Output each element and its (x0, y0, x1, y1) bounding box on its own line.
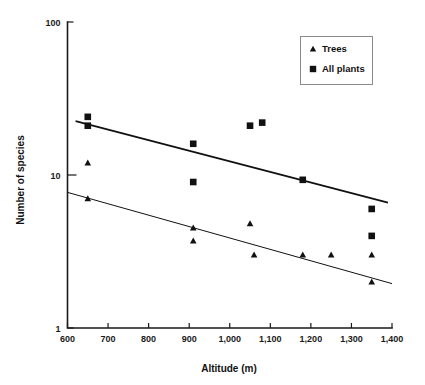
series-all-plants (84, 114, 375, 240)
marker-triangle (368, 252, 375, 258)
x-tick-label: 1,400 (381, 334, 404, 344)
x-tick-label: 1,200 (300, 334, 323, 344)
marker-square (84, 122, 91, 129)
marker-square (299, 177, 306, 184)
y-tick-label: 1 (55, 324, 60, 334)
marker-square (368, 233, 375, 240)
x-tick-label: 700 (101, 334, 116, 344)
marker-square (368, 206, 375, 213)
marker-square (247, 122, 254, 129)
legend-label: Trees (322, 43, 347, 54)
chart-figure: 6007008009001,0001,1001,2001,3001,400 11… (0, 0, 425, 385)
marker-triangle (299, 252, 306, 258)
marker-triangle (368, 278, 375, 284)
marker-square (259, 119, 266, 126)
x-tick-label: 900 (182, 334, 197, 344)
x-tick-label: 800 (141, 334, 156, 344)
trend-lines (68, 121, 393, 284)
data-markers (84, 114, 375, 285)
y-tick-label: 10 (50, 171, 60, 181)
marker-triangle (328, 252, 335, 258)
x-axis-title: Altitude (m) (201, 363, 257, 374)
legend-label: All plants (322, 63, 365, 74)
x-tick-label: 1,300 (340, 334, 363, 344)
x-tick-label: 1,000 (218, 334, 241, 344)
marker-triangle (84, 159, 91, 165)
y-axis-title: Number of species (15, 135, 26, 225)
trendline-all-plants (76, 121, 388, 202)
marker-triangle (247, 220, 254, 226)
x-tick-label: 600 (60, 334, 75, 344)
x-axis-ticks: 6007008009001,0001,1001,2001,3001,400 (60, 323, 403, 344)
x-tick-label: 1,100 (259, 334, 282, 344)
legend-marker-square (310, 66, 316, 72)
y-axis-ticks: 110100 (45, 18, 76, 334)
marker-triangle (190, 238, 197, 244)
marker-square (84, 114, 91, 121)
marker-triangle (251, 252, 258, 258)
series-trees (84, 159, 375, 284)
species-altitude-scatter-plot: 6007008009001,0001,1001,2001,3001,400 11… (0, 0, 425, 385)
marker-square (190, 140, 197, 147)
marker-square (190, 179, 197, 186)
legend: TreesAll plants (301, 37, 373, 85)
y-tick-label: 100 (45, 18, 60, 28)
trendline-trees (68, 192, 393, 283)
